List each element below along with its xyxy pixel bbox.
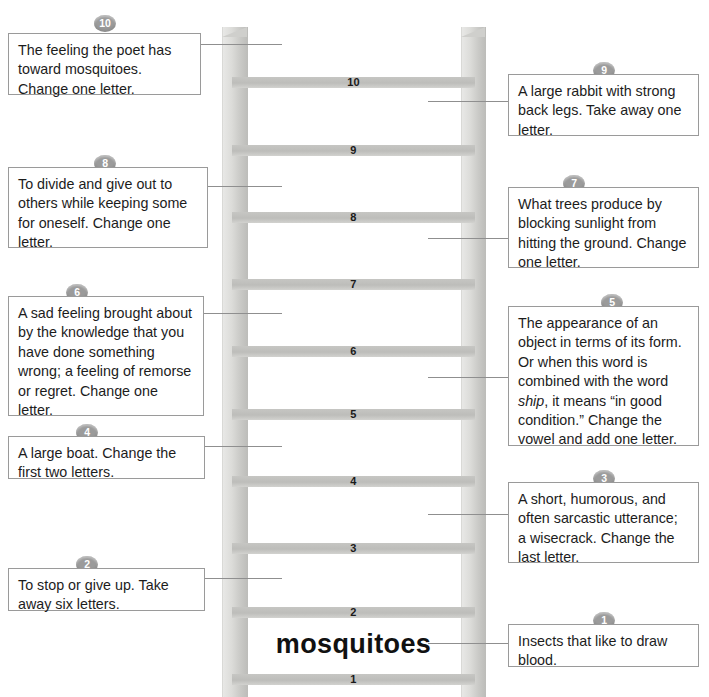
ladder-rung-1 xyxy=(232,674,475,685)
ladder-rung-2 xyxy=(232,607,475,618)
clue-box-7[interactable]: What trees produce by blocking sunlight … xyxy=(508,187,699,268)
clue-box-5[interactable]: The appearance of an object in terms of … xyxy=(508,306,699,446)
clue-box-10[interactable]: The feeling the poet has toward mosquito… xyxy=(8,33,201,95)
clue-box-6[interactable]: A sad feeling brought about by the knowl… xyxy=(8,296,204,416)
clue-text-9: A large rabbit with strong back legs. Ta… xyxy=(518,82,689,140)
ladder-rail-left-cap xyxy=(222,27,247,37)
ladder-rung-9 xyxy=(232,145,475,156)
ladder-rail-left xyxy=(222,27,248,697)
ladder-rung-5 xyxy=(232,409,475,420)
ladder-rung-3 xyxy=(232,543,475,554)
ladder-rung-7 xyxy=(232,279,475,290)
connector-line-3 xyxy=(428,514,510,515)
connector-line-9 xyxy=(428,101,510,102)
clue-box-3[interactable]: A short, humorous, and often sarcastic u… xyxy=(508,482,699,563)
clue-text-2: To stop or give up. Take away six letter… xyxy=(18,576,195,615)
clue-box-9[interactable]: A large rabbit with strong back legs. Ta… xyxy=(508,74,699,136)
ladder-rung-8 xyxy=(232,212,475,223)
connector-line-5 xyxy=(428,377,510,378)
rung-label-3: 3 xyxy=(232,543,475,554)
word-ladder-puzzle-page: 10 9 8 7 6 5 4 3 2 1 mosquitoes 10 The f… xyxy=(0,0,709,697)
rung-label-9: 9 xyxy=(232,145,475,156)
clue-box-1[interactable]: Insects that like to draw blood. xyxy=(508,624,699,667)
ladder-rung-6 xyxy=(232,346,475,357)
clue-text-5-before: The appearance of an object in terms of … xyxy=(518,315,682,389)
rung-label-1: 1 xyxy=(232,674,475,685)
clue-text-5-emphasis: ship xyxy=(518,393,544,409)
rung-label-8: 8 xyxy=(232,212,475,223)
connector-line-1 xyxy=(428,643,510,644)
ladder-rail-right xyxy=(461,27,486,697)
clue-text-7: What trees produce by blocking sunlight … xyxy=(518,195,689,273)
connector-line-4 xyxy=(200,446,282,447)
rung-label-6: 6 xyxy=(232,346,475,357)
rung-label-10: 10 xyxy=(232,77,475,88)
rung-label-2: 2 xyxy=(232,607,475,618)
ladder-rail-right-cap xyxy=(461,27,485,37)
clue-box-2[interactable]: To stop or give up. Take away six letter… xyxy=(8,568,205,611)
rung-label-7: 7 xyxy=(232,279,475,290)
clue-text-5: The appearance of an object in terms of … xyxy=(518,314,689,450)
clue-badge-10: 10 xyxy=(94,15,116,32)
connector-line-10 xyxy=(200,44,282,45)
clue-box-8[interactable]: To divide and give out to others while k… xyxy=(8,167,208,248)
connector-line-8 xyxy=(200,186,282,187)
rung-label-5: 5 xyxy=(232,409,475,420)
connector-line-6 xyxy=(200,313,282,314)
clue-text-4: A large boat. Change the first two lette… xyxy=(18,444,195,483)
clue-text-3: A short, humorous, and often sarcastic u… xyxy=(518,490,689,568)
clue-text-10: The feeling the poet has toward mosquito… xyxy=(18,41,191,99)
clue-box-4[interactable]: A large boat. Change the first two lette… xyxy=(8,436,205,479)
ladder-rung-10 xyxy=(232,77,475,88)
clue-text-1: Insects that like to draw blood. xyxy=(518,632,689,671)
rung-label-4: 4 xyxy=(232,476,475,487)
ladder-rung-4 xyxy=(232,476,475,487)
clue-text-6: A sad feeling brought about by the knowl… xyxy=(18,304,194,420)
answer-word-mosquitoes: mosquitoes xyxy=(232,629,475,660)
connector-line-7 xyxy=(428,238,510,239)
connector-line-2 xyxy=(200,578,282,579)
clue-text-8: To divide and give out to others while k… xyxy=(18,175,198,253)
